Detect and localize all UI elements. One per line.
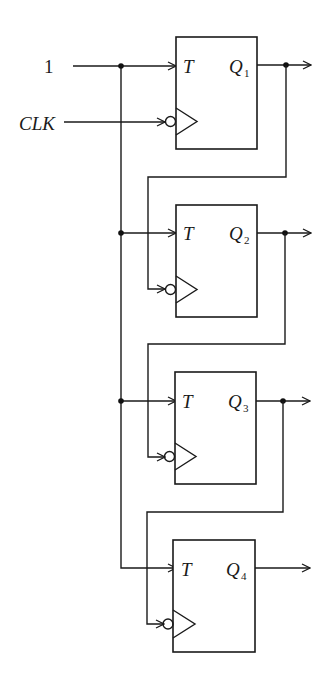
inversion-bubble-icon bbox=[166, 117, 176, 127]
inversion-bubble-icon bbox=[165, 452, 175, 462]
q-label: Q bbox=[228, 391, 242, 412]
input-one-label: 1 bbox=[44, 56, 54, 77]
junction-dot bbox=[118, 63, 124, 69]
flip-flop-4: T Q 4 bbox=[163, 540, 255, 652]
q-label: Q bbox=[229, 223, 243, 244]
flip-flop-1: T Q 1 bbox=[166, 37, 258, 149]
q-subscript: 3 bbox=[243, 402, 249, 414]
t-label: T bbox=[182, 391, 194, 412]
inversion-bubble-icon bbox=[163, 619, 173, 629]
t-label: T bbox=[183, 56, 195, 77]
q-subscript: 4 bbox=[241, 570, 247, 582]
t-label: T bbox=[181, 559, 193, 580]
flip-flop-2: T Q 2 bbox=[166, 205, 258, 317]
q-label: Q bbox=[226, 559, 240, 580]
clock-input-label: CLK bbox=[19, 113, 56, 134]
flip-flop-3: T Q 3 bbox=[165, 372, 257, 484]
q-label: Q bbox=[229, 56, 243, 77]
junction-dot bbox=[118, 398, 124, 404]
inversion-bubble-icon bbox=[166, 285, 176, 295]
t-bus-wire bbox=[121, 66, 176, 568]
junction-dot bbox=[118, 230, 124, 236]
circuit-diagram: 1 CLK T Q 1 T Q 2 T Q 3 bbox=[0, 0, 328, 688]
t-label: T bbox=[183, 223, 195, 244]
q-subscript: 1 bbox=[244, 67, 250, 79]
q-subscript: 2 bbox=[244, 234, 250, 246]
